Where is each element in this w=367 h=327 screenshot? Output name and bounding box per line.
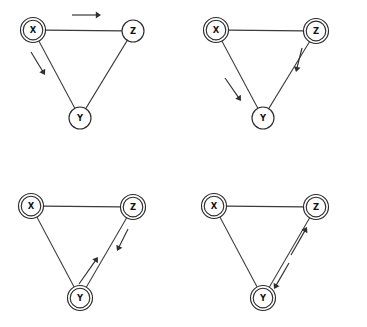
edge-x-y [37,217,74,287]
panel-bottom-left: XZY [19,194,146,311]
arrow-head [92,257,98,263]
edge-group [37,206,127,287]
arrow-group [225,48,302,101]
node-inner-ring [204,196,224,216]
edge-x-y [220,217,257,287]
node-x-active[interactable]: X [19,194,44,219]
arrow-y-to-z [291,227,307,255]
arrow-shaft [291,231,305,255]
arrow-head [96,12,101,19]
node-inner-ring [253,288,273,308]
panel-bottom-right: XZY [202,194,329,311]
arrow-group [274,227,308,289]
edge-x-z [46,30,123,31]
node-x-active[interactable]: X [21,18,46,43]
node-inner-ring [23,20,43,40]
edge-z-y [269,218,309,287]
node-inner-ring [306,21,326,41]
node-y[interactable]: Y [69,107,91,129]
edge-z-y [269,42,310,109]
arrow-x-to-y [225,78,241,101]
node-y-active[interactable]: Y [251,286,276,311]
arrow-shaft [79,260,96,284]
node-y[interactable]: Y [252,107,274,129]
node-z-active[interactable]: Z [304,195,329,220]
node-ring [252,107,274,129]
arrow-y-to-z [79,257,98,284]
node-ring [69,107,91,129]
node-z-active[interactable]: Z [121,195,146,220]
node-z-active[interactable]: Z [304,19,329,44]
node-ring [122,20,144,42]
arrow-shaft [31,52,43,71]
graph-diagram-canvas: XZYXZYXZYXZY [0,0,367,327]
arrow-shaft [225,78,239,98]
arrow-group [79,229,128,284]
edge-x-z [44,206,121,207]
node-y-active[interactable]: Y [68,286,93,311]
node-inner-ring [21,196,41,216]
edge-x-z [229,30,304,31]
node-inner-ring [70,288,90,308]
node-z[interactable]: Z [122,20,144,42]
node-inner-ring [306,197,326,217]
edge-z-y [86,218,126,287]
arrow-shaft [276,263,289,285]
node-inner-ring [123,197,143,217]
node-x-active[interactable]: X [204,18,229,43]
panel-top-right: XZY [204,18,329,130]
panel-top-left: XZY [21,12,145,129]
arrow-head [294,66,301,72]
arrow-x-to-y [31,52,45,75]
edge-z-y [86,40,128,108]
arrow-x-to-z [72,12,101,19]
node-x-active[interactable]: X [202,194,227,219]
node-inner-ring [206,20,226,40]
arrow-shaft [297,48,302,68]
four-panel-graph-figure: XZYXZYXZYXZY [0,0,367,327]
edge-group [39,30,127,108]
edge-x-y [39,41,75,108]
arrow-head [235,95,241,101]
edge-x-z [227,206,304,207]
arrow-shaft [119,229,128,247]
